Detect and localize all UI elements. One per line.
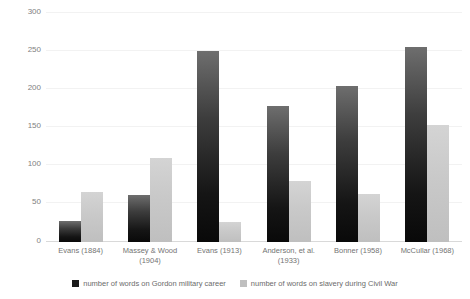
y-tick-label-0: 0 (37, 237, 41, 245)
bar-dark-5[interactable] (405, 47, 427, 242)
legend-swatch-icon-dark (72, 280, 79, 287)
x-tick-label-0: Evans (1884) (46, 246, 115, 274)
bar-light-1[interactable] (150, 158, 172, 242)
legend-label-1: number of words on slavery during Civil … (251, 279, 398, 288)
legend-label-0: number of words on Gordon military caree… (83, 279, 226, 288)
bar-light-0[interactable] (81, 192, 103, 242)
x-tick-label-3: Anderson, et al. (1933) (254, 246, 323, 274)
x-tick-label-5: McCullar (1968) (393, 246, 462, 274)
x-tick-label-2: Evans (1913) (185, 246, 254, 274)
bar-group-evans-1884 (46, 12, 115, 242)
bar-group-mccullar-1968 (393, 12, 462, 242)
bar-dark-4[interactable] (336, 86, 358, 242)
bar-group-massey-wood-1904 (115, 12, 184, 242)
bar-dark-1[interactable] (128, 195, 150, 242)
x-tick-label-1: Massey & Wood (1904) (115, 246, 184, 274)
y-tick-label-250: 250 (28, 46, 41, 54)
bar-light-3[interactable] (289, 181, 311, 242)
bar-group-evans-1913 (185, 12, 254, 242)
bar-group-bonner-1958 (323, 12, 392, 242)
legend-swatch-icon-light (240, 280, 247, 287)
y-tick-label-50: 50 (32, 198, 41, 206)
y-tick-label-150: 150 (28, 122, 41, 130)
bar-light-5[interactable] (427, 125, 449, 242)
legend-item-military-career[interactable]: number of words on Gordon military caree… (72, 279, 226, 288)
bar-dark-0[interactable] (59, 221, 81, 242)
y-tick-label-200: 200 (28, 84, 41, 92)
bar-dark-3[interactable] (267, 106, 289, 242)
chart-legend: number of words on Gordon military caree… (0, 279, 470, 288)
bar-dark-2[interactable] (197, 51, 219, 242)
x-axis-labels: Evans (1884) Massey & Wood (1904) Evans … (46, 246, 462, 274)
legend-item-slavery[interactable]: number of words on slavery during Civil … (240, 279, 398, 288)
y-tick-label-100: 100 (28, 160, 41, 168)
y-axis: 300 250 200 150 100 50 0 (0, 12, 46, 242)
bar-group-anderson-1933 (254, 12, 323, 242)
y-tick-label-300: 300 (28, 8, 41, 16)
bar-groups (46, 12, 462, 242)
bar-light-2[interactable] (219, 222, 241, 242)
bar-chart: 300 250 200 150 100 50 0 (0, 0, 470, 299)
x-tick-label-4: Bonner (1958) (323, 246, 392, 274)
bar-light-4[interactable] (358, 194, 380, 242)
